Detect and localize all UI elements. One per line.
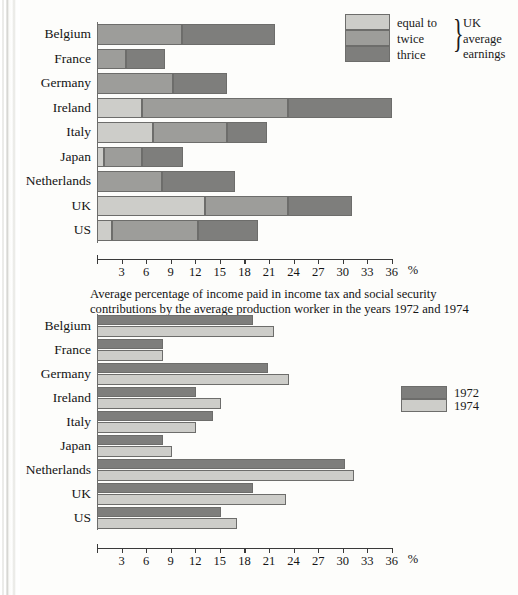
bar-japan-1974 — [97, 446, 172, 457]
bar-france-1974 — [97, 350, 163, 361]
category-label-2-us: US — [74, 511, 91, 525]
category-label-2-germany: Germany — [41, 367, 91, 381]
category-label-2-italy: Italy — [66, 415, 91, 429]
axis-tick — [171, 548, 172, 553]
axis-tick — [122, 548, 123, 553]
category-label-2-uk: UK — [72, 487, 92, 501]
axis-tick-label: 18 — [231, 554, 257, 569]
book-binding-edge — [0, 0, 20, 595]
axis-tick-label: 12 — [182, 554, 208, 569]
bar-us-1972 — [97, 507, 221, 518]
category-label-2-japan: Japan — [60, 439, 91, 453]
axis-tick — [195, 548, 196, 553]
bar-ireland-1972 — [97, 387, 196, 398]
bar-netherlands-1974 — [97, 470, 354, 481]
axis-origin-tick — [97, 544, 98, 553]
category-label-2-france: France — [54, 343, 91, 357]
axis-tick-label: 9 — [158, 554, 184, 569]
legend-swatch-1972 — [401, 386, 447, 399]
axis-tick-label: 6 — [133, 554, 159, 569]
axis-tick — [269, 548, 270, 553]
axis-tick-label: 36 — [379, 554, 405, 569]
legend-label-1972: 1972 — [454, 387, 479, 400]
axis-tick-label: 30 — [330, 554, 356, 569]
axis-tick — [318, 548, 319, 553]
bar-japan-1972 — [97, 435, 163, 446]
bar-ireland-1974 — [97, 398, 221, 409]
bar-netherlands-1972 — [97, 459, 345, 470]
legend-label-1974: 1974 — [454, 400, 479, 413]
bar-france-1972 — [97, 339, 163, 350]
bar-italy-1972 — [97, 411, 213, 422]
bar-italy-1974 — [97, 422, 196, 433]
axis-tick-label: 21 — [256, 554, 282, 569]
category-label-2-belgium: Belgium — [45, 319, 92, 333]
axis-unit-label: % — [408, 552, 418, 567]
category-label-2-ireland: Ireland — [53, 391, 91, 405]
bar-uk-1972 — [97, 483, 253, 494]
axis-tick-label: 15 — [207, 554, 233, 569]
figure-caption: Average percentage of income paid in inc… — [90, 287, 500, 317]
axis-tick-label: 3 — [109, 554, 135, 569]
axis-tick-label: 33 — [354, 554, 380, 569]
axis-tick — [146, 548, 147, 553]
axis-tick — [392, 548, 393, 553]
bar-germany-1974 — [97, 374, 289, 385]
axis-tick-label: 27 — [305, 554, 331, 569]
axis-tick — [294, 548, 295, 553]
legend-swatch-1974 — [401, 399, 447, 412]
bar-us-1974 — [97, 518, 237, 529]
axis-tick-label: 24 — [281, 554, 307, 569]
bar-belgium-1974 — [97, 326, 274, 337]
bar-belgium-1972 — [97, 315, 253, 326]
axis-tick — [367, 548, 368, 553]
axis-tick — [220, 548, 221, 553]
page-content: BelgiumFranceGermanyIrelandItalyJapanNet… — [20, 0, 518, 595]
axis-tick — [343, 548, 344, 553]
category-label-2-netherlands: Netherlands — [26, 463, 91, 477]
chart2-plot-area: BelgiumFranceGermanyIrelandItalyJapanNet… — [20, 0, 518, 270]
bar-germany-1972 — [97, 363, 268, 374]
axis-tick — [244, 548, 245, 553]
bar-uk-1974 — [97, 494, 286, 505]
